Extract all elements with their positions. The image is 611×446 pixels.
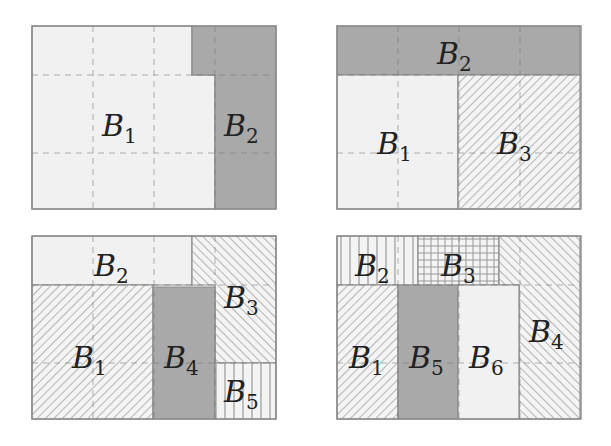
panel-top-right: B2B1B3 (337, 26, 581, 209)
panel-top-left: B1B2 (32, 26, 276, 209)
partition-diagram: B1B2B2B1B3B2B3B1B4B5B2B3B4B1B5B6 (0, 0, 611, 446)
panel-bottom-left: B2B3B1B4B5 (32, 236, 276, 419)
panel-bottom-right: B2B3B4B1B5B6 (337, 236, 581, 419)
